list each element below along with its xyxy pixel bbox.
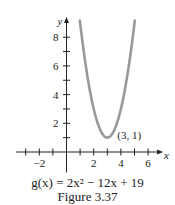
- y-tick-label: 4: [53, 89, 59, 101]
- figure-caption: Figure 3.37: [0, 189, 175, 205]
- x-axis-label: x: [163, 149, 169, 161]
- y-axis-label: y: [57, 15, 63, 27]
- y-tick-label: 8: [53, 31, 59, 43]
- x-axis-arrow-icon: [157, 150, 163, 155]
- y-axis-arrow-icon: [64, 17, 69, 23]
- y-tick-label: 2: [53, 117, 59, 129]
- x-tick-label: 2: [91, 157, 97, 169]
- vertex-label: (3, 1): [117, 129, 141, 142]
- x-tick-label: 6: [145, 157, 151, 169]
- x-tick-label: −2: [33, 157, 45, 169]
- x-tick-label: 4: [118, 157, 124, 169]
- y-tick-label: 6: [53, 60, 59, 72]
- formula-text: g(x) = 2x² − 12x + 19: [31, 175, 144, 190]
- parabola-curve: [80, 21, 135, 138]
